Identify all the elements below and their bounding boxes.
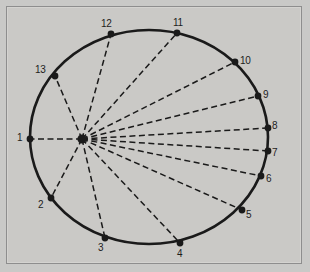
spokes-group xyxy=(30,33,268,243)
node-label: 9 xyxy=(263,90,268,100)
node-label: 1 xyxy=(17,133,22,143)
node-point xyxy=(108,31,115,38)
spoke-line xyxy=(51,139,82,198)
node-point xyxy=(102,235,109,242)
spoke-line xyxy=(82,139,105,238)
node-label: 11 xyxy=(173,18,183,28)
node-label: 5 xyxy=(246,210,251,220)
node-label: 4 xyxy=(177,249,182,259)
node-point xyxy=(177,240,184,247)
spoke-line xyxy=(55,76,82,139)
spoke-line xyxy=(82,139,242,210)
node-point xyxy=(265,125,272,132)
node-label: 13 xyxy=(35,65,46,75)
figure-root: 12345678910111213 xyxy=(0,0,310,272)
hub-point xyxy=(77,134,86,143)
spoke-line xyxy=(82,139,180,243)
node-point xyxy=(48,195,55,202)
node-label: 10 xyxy=(240,56,251,66)
node-label: 2 xyxy=(38,200,43,210)
node-point xyxy=(239,207,246,214)
spoke-line xyxy=(82,33,177,139)
node-label: 8 xyxy=(272,121,277,131)
node-label: 7 xyxy=(272,148,277,158)
node-point xyxy=(255,93,262,100)
node-point xyxy=(232,59,239,66)
node-label: 12 xyxy=(101,19,112,29)
node-label: 3 xyxy=(98,243,103,253)
node-point xyxy=(174,30,181,37)
node-label: 6 xyxy=(266,174,271,184)
node-point xyxy=(258,173,265,180)
node-point xyxy=(27,136,34,143)
node-point xyxy=(52,73,59,80)
circle-spoke-diagram xyxy=(0,0,310,272)
node-point xyxy=(265,148,272,155)
spoke-line xyxy=(82,128,268,139)
spoke-line xyxy=(82,62,235,139)
spoke-line xyxy=(82,96,258,139)
